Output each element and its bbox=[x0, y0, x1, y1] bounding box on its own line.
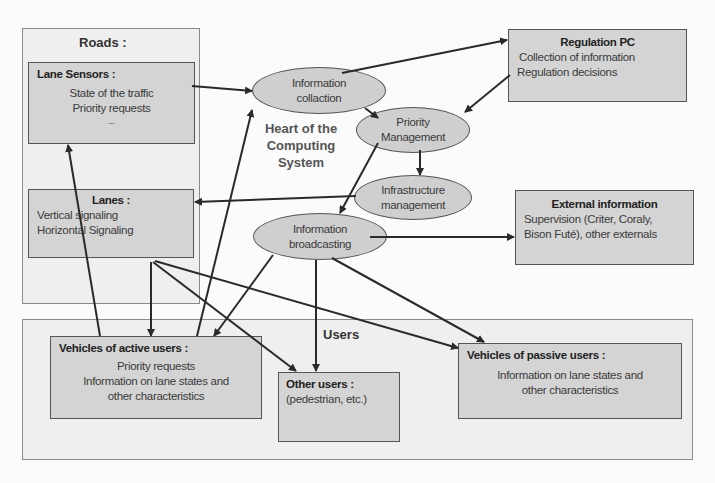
lanes-line: Horizontal Signaling bbox=[37, 223, 185, 238]
computing-system-label-line: Heart of the bbox=[256, 120, 346, 137]
lane-sensors-line: Priority requests bbox=[37, 101, 186, 116]
priority-management-node: Priority Management bbox=[356, 107, 470, 153]
users-title: Users bbox=[323, 327, 359, 342]
active-users-line: Information on lane states and bbox=[59, 374, 253, 389]
external-information-box: External information Supervision (Criter… bbox=[515, 190, 694, 265]
external-information-line: Bison Futé), other externals bbox=[524, 227, 685, 242]
node-line: management bbox=[381, 198, 445, 213]
lane-sensors-box: Lane Sensors : State of the traffic Prio… bbox=[28, 62, 195, 144]
computing-system-label: Heart of the Computing System bbox=[256, 120, 346, 171]
regulation-pc-line: Collection of information bbox=[517, 50, 678, 65]
active-users-title: Vehicles of active users : bbox=[59, 341, 253, 356]
lanes-title: Lanes : bbox=[37, 193, 185, 208]
node-line: Management bbox=[381, 130, 445, 145]
node-line: collaction bbox=[297, 91, 342, 106]
regulation-pc-title: Regulation PC bbox=[517, 35, 678, 50]
passive-users-title: Vehicles of passive users : bbox=[467, 348, 673, 363]
infrastructure-management-node: Infrastructure management bbox=[354, 175, 472, 220]
node-line: broadcasting bbox=[289, 237, 351, 252]
computing-system-label-line: Computing bbox=[256, 137, 346, 154]
active-users-line: Priority requests bbox=[59, 359, 253, 374]
regulation-pc-box: Regulation PC Collection of information … bbox=[508, 29, 687, 102]
computing-system-label-line: System bbox=[256, 154, 346, 171]
arrow-sensors-to-collection bbox=[192, 86, 252, 91]
active-users-line: other characteristics bbox=[59, 389, 253, 404]
other-users-box: Other users : (pedestrian, etc.) bbox=[278, 372, 400, 442]
other-users-line: (pedestrian, etc.) bbox=[286, 392, 392, 407]
node-line: Information bbox=[292, 76, 346, 91]
lanes-line: Vertical signaling bbox=[37, 208, 185, 223]
information-broadcasting-node: Information broadcasting bbox=[253, 213, 387, 260]
lanes-box: Lanes : Vertical signaling Horizontal Si… bbox=[28, 189, 194, 258]
arrow-active-to-collection bbox=[197, 110, 252, 336]
lane-sensors-line: State of the traffic bbox=[37, 86, 186, 101]
active-users-box: Vehicles of active users : Priority requ… bbox=[50, 336, 262, 419]
arrow-collection-to-regulation bbox=[342, 40, 507, 73]
passive-users-line: Information on lane states and bbox=[467, 368, 673, 383]
lane-sensors-title: Lane Sensors : bbox=[37, 67, 186, 82]
node-line: Priority bbox=[396, 115, 429, 130]
lane-sensors-line: ... bbox=[37, 116, 186, 126]
roads-title: Roads : bbox=[79, 35, 127, 50]
node-line: Infrastructure bbox=[381, 183, 445, 198]
passive-users-box: Vehicles of passive users : Information … bbox=[458, 343, 682, 419]
node-line: Information bbox=[293, 222, 347, 237]
other-users-title: Other users : bbox=[286, 377, 392, 392]
passive-users-line: other characteristics bbox=[467, 383, 673, 398]
external-information-line: Supervision (Criter, Coraly, bbox=[524, 212, 685, 227]
arrow-infrastructure-to-lanes bbox=[195, 196, 356, 202]
external-information-title: External information bbox=[524, 197, 685, 212]
arrow-regulation-to-priority bbox=[465, 75, 510, 112]
information-collection-node: Information collaction bbox=[252, 67, 386, 114]
regulation-pc-line: Regulation decisions bbox=[517, 65, 678, 80]
